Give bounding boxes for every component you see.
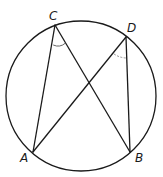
angle-mark-ACB <box>53 43 65 46</box>
segment-DB <box>126 37 130 152</box>
point-B <box>129 151 131 153</box>
segment-CA <box>33 25 55 152</box>
point-D <box>125 36 127 38</box>
label-A: A <box>19 151 28 165</box>
label-C: C <box>49 9 58 23</box>
label-D: D <box>127 21 136 35</box>
circle <box>6 21 156 171</box>
point-C <box>54 24 56 26</box>
inscribed-angles-diagram: C D A B <box>0 0 163 177</box>
angle-mark-ADB <box>114 54 127 58</box>
label-B: B <box>135 151 143 165</box>
segment-DA <box>33 37 126 152</box>
segment-CB <box>55 25 130 152</box>
point-A <box>32 151 34 153</box>
